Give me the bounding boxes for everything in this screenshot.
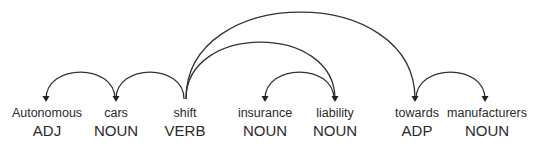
arrowhead-icon xyxy=(482,96,489,102)
token-tag: NOUN xyxy=(465,122,509,139)
arrowhead-icon xyxy=(412,96,419,102)
arc-cars-to-autonomous xyxy=(46,72,115,99)
token-tag: ADJ xyxy=(33,122,61,139)
arc-shift-to-cars xyxy=(116,72,184,99)
token-autonomous: Autonomous ADJ xyxy=(12,106,82,139)
arcs-layer xyxy=(43,12,489,102)
arc-shift-to-liability xyxy=(186,42,335,99)
token-tag: ADP xyxy=(402,122,433,139)
token-word: cars xyxy=(104,106,128,120)
arrowhead-icon xyxy=(332,96,339,102)
dependency-diagram: Autonomous ADJ cars NOUN shift VERB insu… xyxy=(0,0,537,150)
token-towards: towards ADP xyxy=(395,106,439,139)
token-word: Autonomous xyxy=(12,106,82,120)
token-word: insurance xyxy=(238,106,292,120)
arc-shift-to-towards xyxy=(186,12,415,99)
arc-liability-to-insurance xyxy=(265,72,334,99)
token-word: towards xyxy=(395,106,439,120)
token-tag: NOUN xyxy=(313,122,357,139)
token-manufacturers: manufacturers NOUN xyxy=(447,106,527,139)
arrowhead-icon xyxy=(262,96,269,102)
tokens-layer: Autonomous ADJ cars NOUN shift VERB insu… xyxy=(12,106,527,139)
arc-towards-to-manufacturers xyxy=(416,72,485,99)
token-word: shift xyxy=(174,106,197,120)
token-word: manufacturers xyxy=(447,106,527,120)
token-liability: liability NOUN xyxy=(313,106,357,139)
token-cars: cars NOUN xyxy=(94,106,138,139)
token-tag: VERB xyxy=(165,122,206,139)
arrowhead-icon xyxy=(113,96,120,102)
token-insurance: insurance NOUN xyxy=(238,106,292,139)
token-shift: shift VERB xyxy=(165,106,206,139)
arrowhead-icon xyxy=(43,96,50,102)
token-word: liability xyxy=(316,106,354,120)
token-tag: NOUN xyxy=(243,122,287,139)
token-tag: NOUN xyxy=(94,122,138,139)
